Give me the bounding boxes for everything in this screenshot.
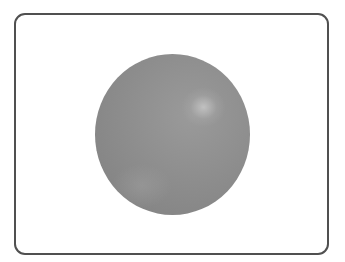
figure-canvas: Gray shaded sphere inside a rounded rect… [0, 0, 345, 262]
gray-sphere [95, 54, 250, 215]
figure-description: Gray shaded sphere inside a rounded rect… [0, 0, 1, 1]
